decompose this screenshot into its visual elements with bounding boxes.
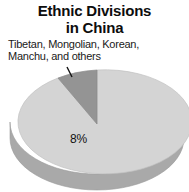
- pie-chart-svg: [0, 62, 189, 192]
- minor-slice-description-line-1: Tibetan, Mongolian, Korean,: [8, 38, 183, 51]
- pie-chart-figure: Ethnic Divisions in China Tibetan, Mongo…: [0, 0, 189, 192]
- chart-title-line-2: in China: [0, 19, 189, 36]
- minor-slice-value-label: 8%: [70, 132, 87, 146]
- chart-title-line-1: Ethnic Divisions: [0, 2, 189, 19]
- pie-slice-major-top: [18, 70, 189, 174]
- pie-chart-plot-area: 8% Han Chinese 92%: [0, 62, 189, 192]
- minor-slice-description-line-2: Manchu, and others: [8, 50, 183, 63]
